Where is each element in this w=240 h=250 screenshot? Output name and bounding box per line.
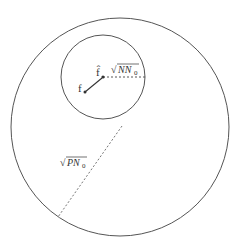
sqrt-symbol: √ xyxy=(60,157,66,168)
label-outer-sub: 0 xyxy=(82,162,86,170)
diagram-canvas: f f̂ √ NN 0 √ PN 0 xyxy=(0,0,240,250)
label-f: f xyxy=(78,82,82,94)
outer-circle xyxy=(11,18,229,236)
point-f xyxy=(84,91,87,94)
label-inner-body: NN xyxy=(117,64,133,75)
f-to-fhat-arrow xyxy=(85,78,102,92)
label-outer-radius: √ PN 0 xyxy=(60,157,87,170)
point-f-hat xyxy=(101,75,104,78)
sqrt-symbol: √ xyxy=(111,64,117,75)
label-inner-radius: √ NN 0 xyxy=(111,64,139,77)
label-f-hat: f̂ xyxy=(96,65,101,78)
outer-radius-line xyxy=(58,126,122,217)
label-outer-body: PN xyxy=(66,157,81,168)
label-inner-sub: 0 xyxy=(134,69,138,77)
